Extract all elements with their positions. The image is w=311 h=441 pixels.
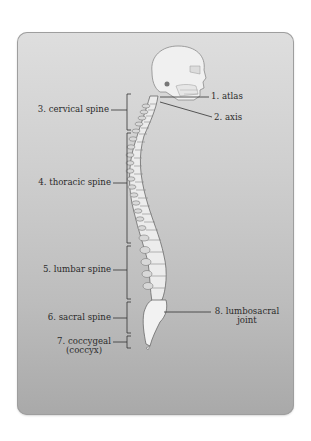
spine-column-icon [126,96,166,302]
leader-lines [160,97,212,312]
coccygeal-bracket [127,336,131,348]
spine-illustration [0,0,311,441]
region-brackets [111,94,131,348]
label-atlas: 1. atlas [211,92,243,101]
label-sacral-spine: 6. sacral spine [48,313,111,322]
skull-icon [152,46,206,100]
label-thoracic-spine: 4. thoracic spine [38,178,111,187]
label-lumbar-spine: 5. lumbar spine [43,265,111,274]
label-lumbosacral-line2: joint [213,316,281,325]
sacral-bracket [127,302,131,333]
label-cervical-spine: 3. cervical spine [38,105,109,114]
label-axis: 2. axis [214,113,242,122]
sacrum-icon [143,300,167,350]
label-coccygeal-line2: (coccyx) [55,346,113,355]
cervical-bracket [127,94,131,130]
lumbar-bracket [127,246,131,299]
axis-leader-line [160,102,212,117]
label-lumbosacral-joint: 8. lumbosacral joint [213,307,281,325]
label-coccygeal: 7. coccygeal (coccyx) [55,337,113,355]
